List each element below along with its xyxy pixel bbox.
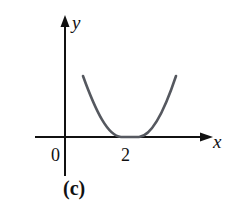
x-axis-arrow-icon [200, 133, 213, 142]
y-axis-arrow-icon [61, 15, 70, 27]
parabola-curve [83, 76, 176, 137]
origin-label: 0 [51, 146, 60, 164]
y-axis-label: y [72, 13, 80, 32]
x-axis-label: x [213, 132, 221, 151]
chart-canvas [0, 0, 240, 219]
figure-caption: (c) [63, 178, 85, 198]
x-tick-label-2: 2 [121, 146, 130, 164]
